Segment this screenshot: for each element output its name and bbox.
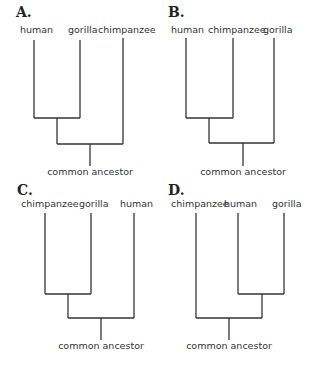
root-label: common ancestor xyxy=(186,340,272,351)
root-label: common ancestor xyxy=(47,166,133,177)
panel-c: C. chimpanzee gorilla human common ances… xyxy=(0,180,156,365)
panel-a: A. human gorilla chimpanzee common ances… xyxy=(0,0,156,182)
tree-branches xyxy=(0,0,156,182)
tree-branches xyxy=(0,180,156,365)
root-label: common ancestor xyxy=(200,166,286,177)
root-label: common ancestor xyxy=(58,340,144,351)
tree-branches xyxy=(156,0,312,182)
panel-d: D. chimpanzee human gorilla common ances… xyxy=(156,180,312,365)
tree-branches xyxy=(156,180,312,365)
panel-b: B. human chimpanzee gorilla common ances… xyxy=(156,0,312,182)
